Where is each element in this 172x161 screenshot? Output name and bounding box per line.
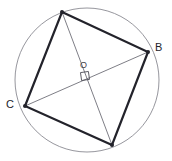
vertex-label-c: C — [6, 99, 14, 110]
center-label-o: O — [80, 61, 87, 70]
vertex-dots — [23, 10, 150, 147]
vertex-point-bottom — [110, 143, 114, 147]
vertex-point-top — [60, 10, 64, 14]
geometry-figure: B C O — [0, 0, 172, 161]
vertex-point-left — [23, 104, 27, 108]
geometry-canvas — [0, 0, 172, 161]
inscribed-quadrilateral — [25, 12, 148, 145]
vertex-point-right — [146, 50, 150, 54]
vertex-label-b: B — [155, 42, 162, 53]
